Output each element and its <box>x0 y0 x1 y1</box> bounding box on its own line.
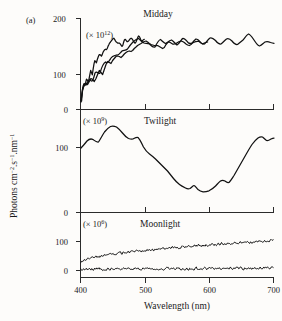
moonlight-scale-prefix: (× 10 <box>83 219 101 229</box>
y-axis-title-part3: .nm <box>9 139 19 154</box>
moonlight-yticklabel-0-top: 0 <box>64 208 68 218</box>
y-axis-title-part1: Photons cm <box>9 173 19 218</box>
twilight-yticklabel-0: 0 <box>64 105 68 115</box>
twilight-panel-label: Twilight <box>144 116 176 126</box>
moonlight-scale-annotation: (× 106) <box>83 219 107 230</box>
xticklabel-700: 700 <box>267 285 280 295</box>
midday-scale-prefix: (× 10 <box>86 30 104 40</box>
figure-panel-letter: (a) <box>26 15 36 25</box>
moonlight-scale-suffix: ) <box>104 219 107 229</box>
y-axis-title: Photons cm−2.s−1.nm−1 <box>9 134 19 218</box>
moonlight-panel: 0 100 0 400 500 600 700 (× 106) Moonligh… <box>55 208 280 295</box>
twilight-scale-suffix: ) <box>104 116 107 126</box>
midday-yticklabel-200: 200 <box>53 14 66 24</box>
x-axis-title: Wavelength (nm) <box>144 301 210 312</box>
moonlight-lower-trace <box>81 267 274 271</box>
midday-data-curve-full <box>81 39 208 101</box>
midday-trace <box>81 34 274 102</box>
midday-yticklabel-100: 100 <box>53 70 66 80</box>
moonlight-panel-label: Moonlight <box>140 219 180 229</box>
moonlight-yticklabel-100: 100 <box>55 237 68 247</box>
twilight-trace <box>81 126 274 192</box>
xticklabel-400: 400 <box>74 285 87 295</box>
twilight-scale-prefix: (× 10 <box>83 116 101 126</box>
midday-panel: 200 100 (× 1012) Midday <box>53 9 274 110</box>
moonlight-upper-trace <box>81 240 274 263</box>
spectral-irradiance-figure: (a) Photons cm−2.s−1.nm−1 200 100 <box>0 0 282 321</box>
twilight-panel: 0 100 (× 109) Twilight <box>55 105 274 213</box>
midday-data-curve <box>82 36 145 101</box>
y-axis-title-sup3: −1 <box>9 134 15 140</box>
twilight-yticklabel-100: 100 <box>55 143 68 153</box>
svg-text:Photons cm−2.s−1.nm−1: Photons cm−2.s−1.nm−1 <box>9 134 19 218</box>
figure-container: (a) Photons cm−2.s−1.nm−1 200 100 <box>0 0 282 321</box>
midday-scale-annotation: (× 1012) <box>86 30 113 41</box>
moonlight-yticklabel-0-bottom: 0 <box>64 266 68 276</box>
xticklabel-500: 500 <box>139 285 152 295</box>
midday-panel-label: Midday <box>143 9 173 19</box>
xticklabel-600: 600 <box>203 285 216 295</box>
twilight-scale-annotation: (× 109) <box>83 116 107 127</box>
